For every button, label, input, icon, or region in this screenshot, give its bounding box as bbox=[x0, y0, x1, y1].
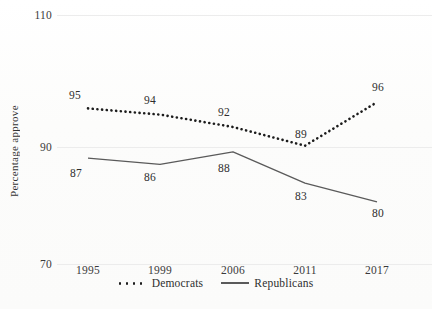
legend-label-republicans: Republicans bbox=[254, 277, 313, 289]
chart-legend: Democrats Republicans bbox=[0, 277, 432, 289]
dotted-line-swatch-icon bbox=[119, 279, 147, 287]
series-line-republicans bbox=[88, 152, 377, 202]
plot-area bbox=[0, 0, 432, 309]
data-label-republicans-1995: 87 bbox=[63, 167, 89, 179]
data-label-republicans-2006: 88 bbox=[211, 162, 237, 174]
data-label-republicans-1999: 86 bbox=[137, 171, 163, 183]
legend-item-democrats[interactable]: Democrats bbox=[119, 277, 204, 289]
data-label-democrats-1995: 95 bbox=[62, 89, 88, 101]
legend-item-republicans[interactable]: Republicans bbox=[221, 277, 313, 289]
data-label-republicans-2017: 80 bbox=[365, 207, 391, 219]
data-label-republicans-2011: 83 bbox=[288, 190, 314, 202]
legend-label-democrats: Democrats bbox=[152, 277, 204, 289]
line-chart: 110 90 70 Percentage approve 1995 1999 2… bbox=[0, 0, 432, 309]
data-label-democrats-2011: 89 bbox=[288, 128, 314, 140]
data-label-democrats-2006: 92 bbox=[211, 106, 237, 118]
data-label-democrats-2017: 96 bbox=[365, 81, 391, 93]
data-label-democrats-1999: 94 bbox=[137, 94, 163, 106]
solid-line-swatch-icon bbox=[221, 282, 249, 283]
